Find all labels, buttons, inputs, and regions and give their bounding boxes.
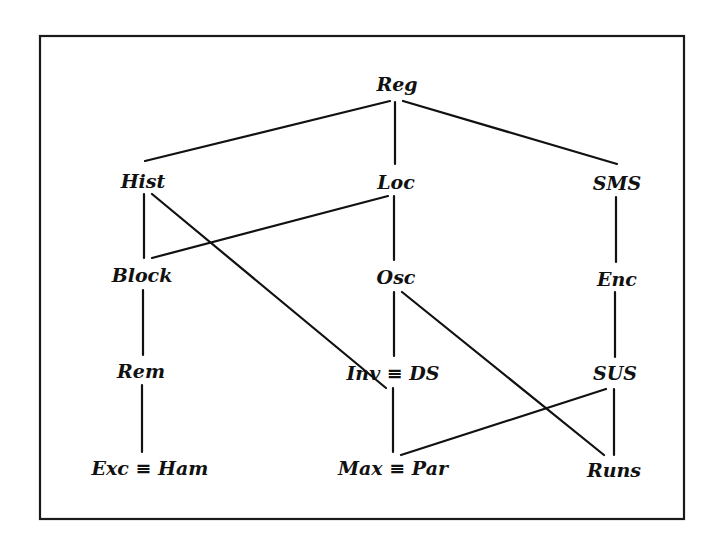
node-sus: SUS [593, 362, 637, 384]
node-runs: Runs [586, 459, 641, 481]
node-reg: Reg [375, 73, 417, 95]
node-osc: Osc [377, 266, 416, 288]
node-excham: Exc ≡ Ham [91, 457, 209, 479]
node-invds: Inv ≡ DS [345, 362, 439, 384]
node-block: Block [111, 264, 173, 286]
node-enc: Enc [596, 268, 637, 290]
node-rem: Rem [116, 360, 165, 382]
lattice-diagram: RegHistLocSMSBlockOscEncRemInv ≡ DSSUSEx… [0, 0, 720, 545]
edge-sus-maxpar [401, 389, 606, 455]
edge-hist-invds [152, 194, 386, 388]
node-sms: SMS [593, 172, 641, 194]
edge-loc-block [152, 196, 388, 258]
node-maxpar: Max ≡ Par [337, 457, 450, 479]
edge-reg-hist [145, 101, 390, 161]
node-loc: Loc [376, 171, 415, 193]
node-hist: Hist [120, 170, 166, 192]
edge-reg-sms [403, 101, 617, 164]
